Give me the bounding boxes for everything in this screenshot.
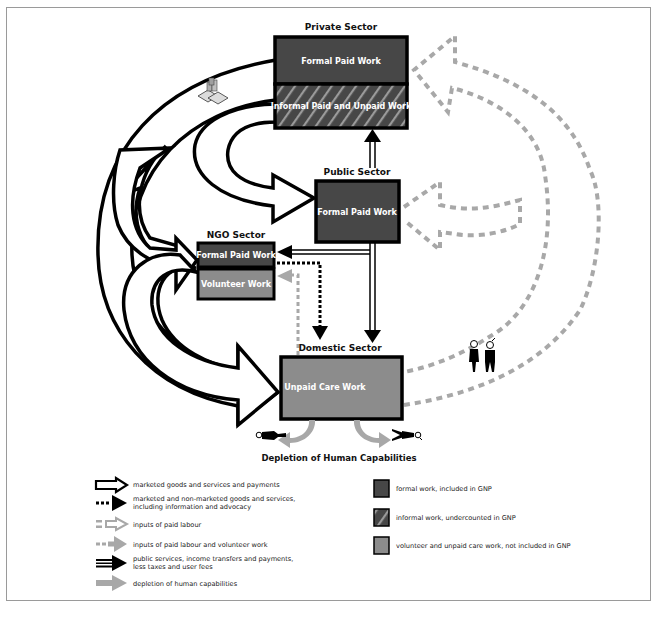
gray-solid-arrow-icon xyxy=(96,575,127,591)
outline-arrow-icon xyxy=(96,478,127,492)
ngo-sector: Formal Paid Work Volunteer Work xyxy=(196,243,276,299)
dotted-black-arrow-icon xyxy=(96,495,127,511)
swatch-label-formal: formal work, included in GNP xyxy=(396,485,492,493)
public-to-ngo-arrowhead xyxy=(277,245,292,259)
informal-work-swatch xyxy=(374,509,389,526)
dashed-gray-outline-arrow-icon xyxy=(96,518,127,530)
swatch-label-informal: informal work, undercounted in GNP xyxy=(396,514,516,522)
formal-work-swatch xyxy=(374,480,389,497)
domestic-sector: Unpaid Care Work xyxy=(281,357,402,419)
legend-label-2a: marketed and non-marketed goods and serv… xyxy=(133,495,295,503)
legend-label-5b: less taxes and user fees xyxy=(133,563,213,571)
public-to-private-arrow xyxy=(364,129,381,168)
domestic-sector-title: Domestic Sector xyxy=(298,343,382,353)
public-to-domestic-arrowhead xyxy=(364,330,381,343)
public-sector: Formal Paid Work xyxy=(316,181,399,242)
double-line-black-arrow-icon xyxy=(96,555,127,571)
domestic-to-ngo-volunteer-arrow xyxy=(277,269,298,355)
dashed-gray-solid-arrow-icon xyxy=(96,536,127,552)
depletion-arrows xyxy=(278,420,391,448)
public-sector-title: Public Sector xyxy=(324,167,391,177)
volunteer-work-swatch xyxy=(374,537,389,554)
legend-label-4: inputs of paid labour and volunteer work xyxy=(133,541,268,549)
private-sector-title: Private Sector xyxy=(305,22,378,32)
legend-swatches: formal work, included in GNP informal wo… xyxy=(374,480,571,554)
unpaid-care-work-label: Unpaid Care Work xyxy=(284,383,366,392)
ngo-formal-paid-work-label: Formal Paid Work xyxy=(196,251,276,260)
ngo-sector-title: NGO Sector xyxy=(207,230,266,240)
legend-label-5a: public services, income transfers and pa… xyxy=(133,555,293,563)
legend-arrows: marketed goods and services and payments… xyxy=(96,478,295,591)
legend-label-1: marketed goods and services and payments xyxy=(133,481,280,489)
private-informal-work-label: Informal Paid and Unpaid Work xyxy=(271,102,412,111)
ngo-volunteer-work-label: Volunteer Work xyxy=(201,280,272,289)
swatch-label-volunteer: volunteer and unpaid care work, not incl… xyxy=(396,542,571,550)
legend-label-2b: including information and advocacy xyxy=(133,503,251,511)
fallen-man-icon xyxy=(392,429,422,441)
private-formal-paid-work-label: Formal Paid Work xyxy=(301,57,381,66)
paid-labour-dashed-arrows xyxy=(404,36,599,405)
economy-flow-diagram: Private Sector Formal Paid Work Informal… xyxy=(0,0,664,625)
depletion-title: Depletion of Human Capabilities xyxy=(261,453,416,463)
private-sector: Formal Paid Work Informal Paid and Unpai… xyxy=(271,37,412,128)
legend-label-6: depletion of human capabilities xyxy=(133,580,238,588)
public-formal-paid-work-label: Formal Paid Work xyxy=(317,208,397,217)
public-services-arrows xyxy=(290,242,375,332)
legend-label-3: inputs of paid labour xyxy=(133,521,202,529)
